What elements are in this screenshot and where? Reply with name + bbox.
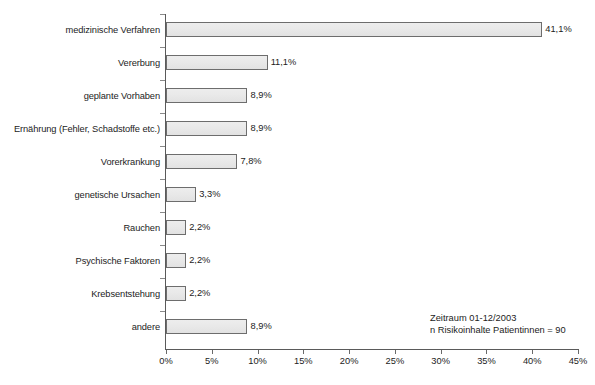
y-axis-tick [160,146,165,147]
bar [166,220,186,235]
category-label: andere [0,322,160,333]
chart-annotation: Zeitraum 01-12/2003 n Risikoinhalte Pati… [430,312,566,336]
bar [166,121,247,136]
category-label: genetische Ursachen [0,190,160,201]
bar-value-label: 2,2% [186,220,210,235]
x-axis-tick-label: 15% [294,356,313,366]
y-axis-tick [160,212,165,213]
bar-value-label: 8,9% [247,319,271,334]
x-axis-tick-label: 35% [477,356,496,366]
plot-area: 41,1% 11,1% 8,9% 8,9% 7,8% 3,3% 2,2% 2,2… [166,0,578,349]
x-axis-tick [166,350,167,354]
category-label: geplante Vorhaben [0,91,160,102]
category-label: medizinische Verfahren [0,25,160,36]
y-axis-tick [160,245,165,246]
x-axis-tick [441,350,442,354]
x-axis-tick-label: 10% [248,356,267,366]
x-axis-tick-label: 30% [431,356,450,366]
bar-value-label: 8,9% [247,88,271,103]
bar [166,88,247,103]
bar-value-label: 2,2% [186,253,210,268]
x-axis-tick-label: 0% [159,356,172,366]
bar [166,319,247,334]
category-label: Psychische Faktoren [0,256,160,267]
x-axis-tick [532,350,533,354]
y-axis-tick [160,47,165,48]
bar [166,187,196,202]
x-axis-tick [212,350,213,354]
category-label: Ernährung (Fehler, Schadstoffe etc.) [0,124,160,135]
x-axis-tick-label: 45% [569,356,588,366]
x-axis-tick [349,350,350,354]
x-axis-tick [258,350,259,354]
category-label: Vorerkrankung [0,157,160,168]
y-axis-tick [160,179,165,180]
x-axis-tick-label: 40% [523,356,542,366]
x-axis-line [165,349,579,350]
bar-value-label: 8,9% [247,121,271,136]
y-axis-tick [160,278,165,279]
x-axis-tick [395,350,396,354]
bar [166,55,268,70]
bar-value-label: 2,2% [186,286,210,301]
x-axis-tick [578,350,579,354]
x-axis-tick-label: 5% [205,356,218,366]
bar [166,22,542,37]
x-axis-tick [486,350,487,354]
bar [166,154,237,169]
x-axis-tick-label: 25% [386,356,405,366]
category-label: Rauchen [0,223,160,234]
x-axis-tick-label: 20% [340,356,359,366]
bar-value-label: 11,1% [268,55,297,70]
annotation-line-period: Zeitraum 01-12/2003 [430,312,566,324]
y-axis-tick [160,80,165,81]
y-axis-tick [160,311,165,312]
category-label: Vererbung [0,58,160,69]
bar-value-label: 7,8% [237,154,261,169]
category-label: Krebsentstehung [0,289,160,300]
bar [166,286,186,301]
x-axis-tick [303,350,304,354]
bar-chart: medizinische Verfahren Vererbung geplant… [0,0,595,385]
y-axis-tick [160,113,165,114]
bar [166,253,186,268]
bar-value-label: 3,3% [196,187,220,202]
bar-value-label: 41,1% [542,22,571,37]
y-axis-tick [160,14,165,15]
annotation-line-n: n Risikoinhalte Patientinnen = 90 [430,324,566,336]
